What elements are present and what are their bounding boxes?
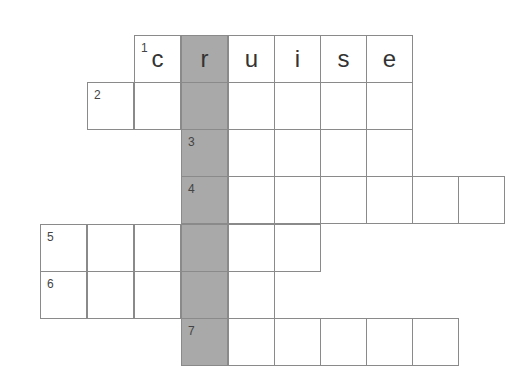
crossword-cell[interactable] [366,176,413,224]
crossword-cell[interactable]: 3 [181,129,228,177]
crossword-cell[interactable] [134,82,181,130]
crossword-cell[interactable] [458,176,505,224]
crossword-cell[interactable] [274,224,321,272]
cell-letter: e [367,46,412,72]
crossword-cell[interactable] [274,318,321,366]
clue-number: 4 [188,183,195,195]
crossword-cell[interactable] [320,318,367,366]
crossword-cell[interactable]: 6 [40,271,87,319]
clue-number: 5 [47,231,54,243]
crossword-cell[interactable]: 1c [134,35,181,83]
crossword-cell[interactable] [181,224,228,272]
crossword-cell[interactable] [228,129,275,177]
crossword-cell[interactable] [366,82,413,130]
crossword-cell[interactable] [366,318,413,366]
crossword-cell[interactable] [412,318,459,366]
crossword-cell[interactable] [134,224,181,272]
crossword-cell[interactable] [87,271,134,319]
cell-letter: s [321,46,366,72]
crossword-cell[interactable] [228,82,275,130]
crossword-cell[interactable] [366,129,413,177]
clue-number: 3 [188,136,195,148]
crossword-cell[interactable]: 4 [181,176,228,224]
crossword-cell[interactable]: 5 [40,224,87,272]
clue-number: 2 [94,89,101,101]
crossword-cell[interactable]: s [320,35,367,83]
crossword-cell[interactable] [412,176,459,224]
crossword-cell[interactable] [228,271,275,319]
cell-letter: r [182,46,227,72]
clue-number: 7 [188,325,195,337]
crossword-cell[interactable] [274,82,321,130]
crossword-cell[interactable] [228,318,275,366]
crossword-cell[interactable]: 7 [181,318,228,366]
crossword-cell[interactable] [87,224,134,272]
crossword-cell[interactable] [134,271,181,319]
crossword-cell[interactable] [274,129,321,177]
cell-letter: c [135,46,180,72]
crossword-cell[interactable]: r [181,35,228,83]
crossword-cell[interactable]: 2 [87,82,134,130]
crossword-cell[interactable]: e [366,35,413,83]
cell-letter: i [275,46,320,72]
crossword-grid: 1cruise234567 [0,0,531,380]
crossword-cell[interactable] [274,176,321,224]
crossword-cell[interactable] [181,271,228,319]
crossword-cell[interactable] [320,129,367,177]
cell-letter: u [229,46,274,72]
crossword-cell[interactable] [320,176,367,224]
crossword-cell[interactable] [181,82,228,130]
crossword-cell[interactable]: i [274,35,321,83]
clue-number: 6 [47,278,54,290]
crossword-cell[interactable] [228,224,275,272]
crossword-cell[interactable] [320,82,367,130]
crossword-cell[interactable] [228,176,275,224]
crossword-cell[interactable]: u [228,35,275,83]
